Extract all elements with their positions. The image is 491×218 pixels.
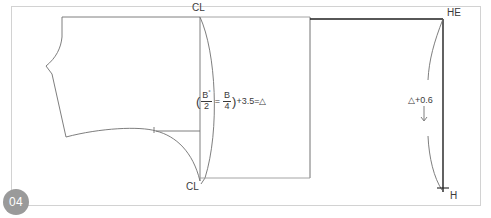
- pattern-diagram-page: CL CL HE H △+0.6 ( B° 2 = B 4 ) +3.5= △ …: [0, 0, 491, 218]
- formula-fraction-two: B 4: [223, 91, 231, 111]
- label-delta-plus-offset: △+0.6: [408, 95, 433, 105]
- armhole-curve: [46, 17, 62, 66]
- hem-curve-to-center: [156, 131, 200, 181]
- formula-inner-equals: =: [215, 96, 220, 106]
- formula-fraction-one: B° 2: [201, 91, 211, 111]
- label-hem: H: [450, 190, 457, 201]
- formula-prime-mark: °: [208, 89, 210, 95]
- down-arrow-icon: [421, 106, 427, 121]
- label-hem-edge: HE: [447, 7, 461, 18]
- figure-number-badge: 04: [3, 189, 29, 215]
- formula-numerator-two: B: [223, 91, 231, 102]
- upper-shaping-curve: [428, 19, 443, 80]
- left-garment-block: [46, 17, 200, 181]
- formula-plus-value: +3.5=: [236, 96, 259, 106]
- formula-denominator-one: 2: [204, 102, 209, 112]
- side-seam-lower: [52, 74, 66, 137]
- center-curve-tail: [201, 178, 205, 184]
- formula-numerator-one: B°: [201, 91, 211, 102]
- formula-open-paren: (: [196, 95, 200, 108]
- label-center-line-bottom: CL: [186, 181, 199, 192]
- side-seam-upper: [46, 66, 52, 74]
- lower-shaping-curve: [428, 136, 442, 190]
- bust-measurement-formula: ( B° 2 = B 4 ) +3.5= △: [196, 91, 266, 111]
- hem-curve: [66, 128, 156, 137]
- formula-result-symbol: △: [259, 96, 266, 106]
- label-center-line-top: CL: [192, 2, 205, 13]
- formula-denominator-two: 4: [225, 102, 230, 112]
